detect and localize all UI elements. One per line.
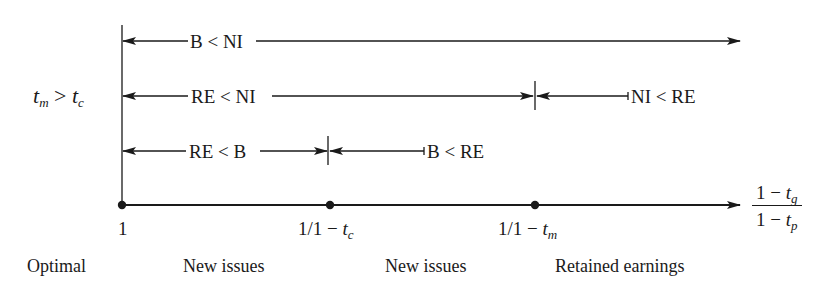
region-retained-earnings: Retained earnings (555, 257, 684, 275)
region-optimal: Optimal (27, 257, 86, 275)
row3-left-label: RE < B (188, 142, 247, 161)
fraction-denominator: 1 − tp (752, 206, 802, 229)
row2-left-label: RE < NI (190, 87, 257, 106)
axis-label-fraction: 1 − tg 1 − tp (752, 183, 802, 229)
region-new-issues-2: New issues (385, 257, 467, 275)
fraction-numerator: 1 − tg (752, 183, 802, 206)
point-tm (531, 201, 539, 209)
tick-1: 1 (117, 219, 129, 238)
tick-tm: 1/1 − tm (497, 219, 558, 238)
point-tc (326, 201, 334, 209)
row1-label: B < NI (189, 32, 244, 51)
row3-right-label: B < RE (426, 142, 485, 161)
region-new-issues-1: New issues (183, 257, 265, 275)
condition-label: tm > tc (32, 85, 85, 107)
row2-right-label: NI < RE (630, 87, 697, 106)
point-1 (118, 201, 126, 209)
tick-tc: 1/1 − tc (297, 219, 355, 238)
diagram-lines (0, 0, 840, 298)
